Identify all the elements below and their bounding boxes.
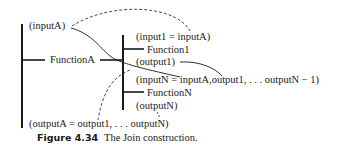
function1-label: Function1: [147, 44, 190, 56]
figure-number: Figure 4.34: [37, 132, 98, 144]
input1-label: (input1 = inputA): [136, 31, 210, 43]
output1-to-outputA-dashed: [98, 70, 130, 120]
output1-label: (output1): [136, 56, 175, 68]
inputN-label: (inputN = inputA,output1, . . . outputN …: [136, 74, 319, 86]
outputN-label: (outputN): [136, 100, 177, 112]
functionN-label: FunctionN: [147, 87, 192, 99]
figure-caption: The Join construction.: [104, 132, 198, 144]
outputA-label: (outputA = output1, . . . outputN): [29, 118, 169, 130]
functionA-label: FunctionA: [50, 54, 95, 66]
inputA-to-input1-dashed: [72, 9, 190, 31]
inputA-label: (inputA): [29, 20, 65, 32]
